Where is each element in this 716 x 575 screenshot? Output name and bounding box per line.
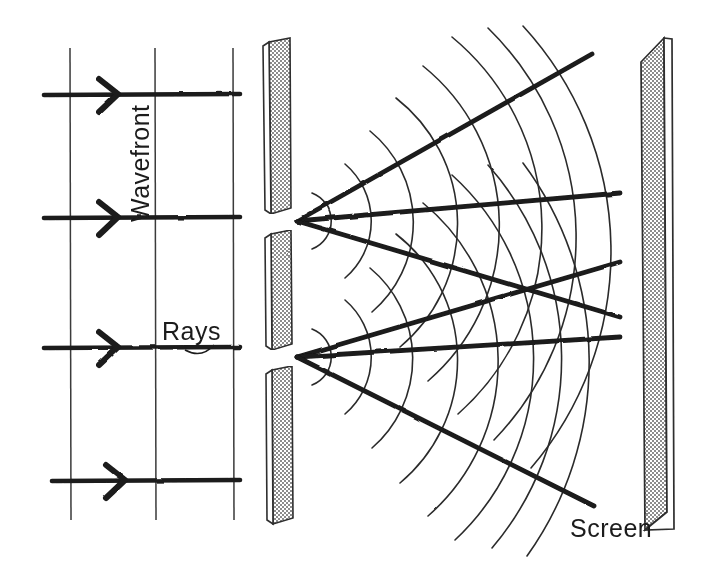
u-arc-8: [523, 26, 611, 468]
l-arc-4: [396, 234, 458, 483]
incoming-ray-1: [44, 94, 240, 95]
rays-label: Rays: [162, 317, 221, 345]
upper-ray-down: [297, 221, 620, 317]
diffraction-diagram: Wavefront Rays: [0, 0, 716, 575]
l-arc-2: [345, 300, 371, 414]
slit-barrier: [263, 38, 293, 524]
incoming-ray-4: [52, 480, 240, 481]
u-arc-6: [452, 37, 542, 414]
l-arc-3: [370, 268, 413, 448]
barrier-segment-lower: [266, 366, 293, 524]
diagram-canvas: Wavefront Rays: [0, 0, 716, 575]
lower-slit: [270, 350, 293, 366]
screen-body: [641, 38, 667, 530]
incoming-ray-arrowheads: [99, 79, 125, 498]
wavefront-line-1: [70, 48, 71, 520]
upper-ray-middle: [297, 193, 620, 221]
upper-slit: [269, 214, 292, 230]
upper-ray-up: [297, 54, 592, 221]
l-arc-6: [452, 175, 534, 540]
lower-ray-down: [297, 357, 594, 506]
screen-label: Screen: [570, 514, 652, 542]
viewing-screen: [641, 38, 674, 530]
lower-ray-up: [297, 262, 620, 357]
barrier-segment-upper: [263, 38, 291, 214]
wavefront-line-3: [233, 48, 234, 520]
l-arc-5: [423, 203, 498, 516]
barrier-segment-middle: [265, 230, 292, 350]
wavefront-line-2: [155, 48, 156, 520]
lower-ray-middle: [297, 337, 620, 357]
wavefront-label: Wavefront: [126, 104, 154, 222]
